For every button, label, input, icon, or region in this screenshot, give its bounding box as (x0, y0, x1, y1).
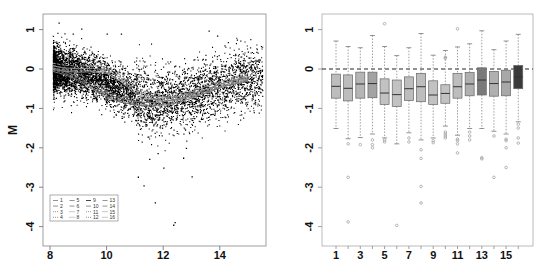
outlier-point (505, 147, 508, 150)
y-axis: 10-1-2-3-4 (24, 27, 43, 232)
legend-label: 16 (110, 214, 116, 220)
box-16 (514, 34, 523, 144)
legend-label: 8 (77, 214, 80, 220)
x-axis: 8101214 (47, 246, 227, 260)
box-12 (465, 44, 474, 141)
outlier-point (420, 185, 423, 188)
y-tick-label: -3 (303, 182, 315, 192)
x-tick-label: 3 (357, 249, 363, 260)
box-13 (477, 31, 486, 160)
plot-frame (322, 14, 533, 246)
box-6 (392, 56, 401, 227)
outlier-point (517, 123, 520, 126)
outlier-point (517, 127, 520, 130)
y-tick-label: -4 (303, 221, 315, 232)
y-tick-label: -4 (24, 221, 36, 232)
x-tick-label: 8 (47, 249, 53, 260)
outlier-point (347, 143, 350, 146)
outlier-point (371, 147, 374, 150)
outlier-point (493, 135, 496, 138)
outlier-point (468, 131, 471, 134)
box-8 (417, 34, 426, 205)
box-7 (404, 48, 413, 143)
outlier-point (517, 142, 520, 145)
outlier-point (517, 137, 520, 140)
x-tick-label: 14 (214, 249, 227, 260)
outlier-point (347, 176, 350, 179)
x-tick-label: 13 (476, 249, 488, 260)
x-tick-label: 10 (100, 249, 112, 260)
outlier-point (468, 135, 471, 138)
outlier-point (420, 157, 423, 160)
outlier-point (456, 28, 459, 31)
x-tick-label: 11 (452, 249, 464, 260)
y-axis-title: M (6, 125, 20, 135)
outlier-point (493, 176, 496, 179)
legend-label: 4 (60, 214, 63, 220)
outlier-point (420, 202, 423, 205)
box-5 (380, 22, 389, 143)
outlier-point (505, 166, 508, 169)
box-4 (368, 36, 377, 150)
box-11 (453, 28, 462, 155)
outlier-point (456, 143, 459, 146)
x-tick-label: 1 (333, 249, 339, 260)
outlier-point (347, 221, 350, 224)
x-axis: 13579111315 (333, 246, 518, 260)
outlier-point (468, 139, 471, 142)
x-tick-label: 12 (157, 249, 169, 260)
y-tick-label: -3 (24, 182, 36, 192)
x-tick-label: 7 (406, 249, 412, 260)
box-2 (344, 47, 353, 224)
boxplot-panel: 10-1-2-3-4 13579111315 (303, 14, 533, 260)
y-axis: 10-1-2-3-4 (303, 27, 322, 232)
box-3 (356, 48, 365, 146)
outlier-point (383, 22, 386, 25)
outlier-point (359, 143, 362, 146)
ma-plot-panel: 10-1-2-3-4 8101214 M 1234567891011121314… (6, 14, 266, 260)
outlier-point (395, 224, 398, 227)
y-tick-label: -2 (24, 143, 36, 153)
y-tick-label: -1 (303, 104, 315, 114)
legend: 12345678910111213141516 (50, 195, 118, 221)
outlier-point (408, 137, 411, 140)
x-tick-label: 5 (382, 249, 388, 260)
box-10 (441, 50, 450, 139)
y-tick-label: 1 (303, 27, 315, 33)
y-tick-label: 0 (24, 66, 36, 72)
boxes (332, 22, 523, 226)
y-tick-label: 0 (303, 66, 315, 72)
box-1 (332, 41, 341, 128)
y-tick-label: -1 (24, 104, 36, 114)
outlier-point (456, 152, 459, 155)
outlier-point (408, 141, 411, 144)
x-tick-label: 15 (500, 249, 512, 260)
legend-label: 12 (93, 214, 99, 220)
outlier-point (420, 148, 423, 151)
box-15 (502, 41, 511, 169)
figure: 10-1-2-3-4 8101214 M 1234567891011121314… (0, 0, 544, 260)
y-tick-label: 1 (24, 27, 36, 33)
y-tick-label: -2 (303, 143, 315, 153)
outlier-point (371, 139, 374, 142)
outlier-point (371, 143, 374, 146)
x-tick-label: 9 (430, 249, 436, 260)
